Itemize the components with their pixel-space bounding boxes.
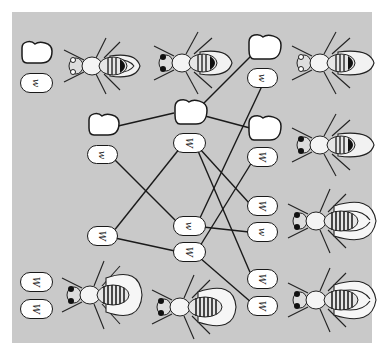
x-chromosome-offspring: W (247, 147, 278, 167)
allele-label: W (185, 247, 195, 257)
x-chromosome-parent: w (20, 73, 53, 93)
allele-label: w (98, 150, 108, 159)
x-chromosome-offspring: W (247, 269, 278, 289)
x-chromosome-parent: W (20, 299, 53, 319)
allele-label: W (258, 301, 268, 311)
x-chromosome-parent: W (20, 272, 53, 292)
line-col2W1-to-off4W1 (198, 151, 252, 277)
x-chromosome-gamete: W (173, 133, 206, 153)
y-chromosome-icon (172, 96, 210, 127)
fly-female-icon (148, 272, 238, 342)
x-chromosome-gamete: W (173, 242, 206, 262)
line-col1W-to-col2W1 (113, 148, 180, 232)
allele-label: W (185, 138, 195, 148)
fly-male-icon (286, 30, 376, 96)
allele-label: W (258, 152, 268, 162)
x-chromosome-offspring: w (247, 222, 278, 242)
allele-label: W (32, 277, 42, 287)
line-col1w-to-col2w (113, 158, 177, 222)
fly-female-icon (58, 258, 144, 332)
x-chromosome-gamete: w (87, 145, 118, 164)
allele-label: W (32, 304, 42, 314)
x-chromosome-gamete: w (173, 216, 206, 236)
y-chromosome-icon (86, 110, 122, 138)
allele-label: W (258, 274, 268, 284)
y-chromosome-icon (246, 31, 284, 62)
line-col1W-to-col2W2 (115, 238, 175, 251)
x-chromosome-offspring: w (247, 68, 278, 88)
allele-label: W (258, 201, 268, 211)
allele-label: w (258, 74, 268, 83)
fly-male-icon (286, 112, 376, 178)
allele-label: w (258, 228, 268, 237)
fly-female-icon (284, 186, 378, 256)
allele-label: w (185, 222, 195, 231)
fly-male-icon (58, 36, 144, 96)
y-chromosome-icon (19, 38, 55, 66)
x-chromosome-offspring: W (247, 296, 278, 316)
allele-label: w (32, 79, 42, 88)
allele-label: W (98, 231, 108, 241)
fly-male-icon (148, 30, 234, 96)
x-chromosome-offspring: W (247, 196, 278, 216)
x-chromosome-gamete: W (87, 226, 118, 246)
fly-female-icon (284, 265, 378, 335)
y-chromosome-icon (246, 112, 284, 143)
line-col1Y-to-col2Y (118, 113, 174, 126)
